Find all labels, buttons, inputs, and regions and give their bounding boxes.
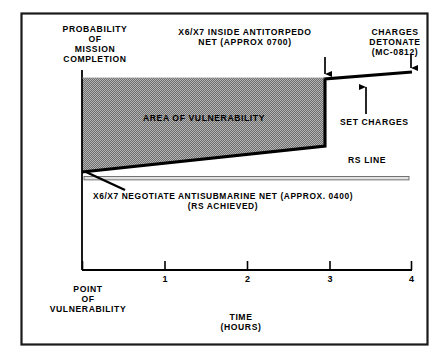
x-axis-title-line-1: TIME [186,312,296,322]
negotiate-net-line-2: (RS ACHIEVED) [58,202,388,212]
rs-line [84,177,409,180]
x-axis-title: TIME (HOURS) [186,312,296,332]
charges-detonate-line-1: CHARGES [352,27,438,37]
x-tick-label-1: 1 [158,274,172,284]
charges-detonate-line-3: (MC-0812) [352,47,438,57]
annotation-negotiate-antisubmarine-net: X6/X7 NEGOTIATE ANTISUBMARINE NET (APPRO… [58,192,388,212]
origin-label-line-2: OF [30,294,146,304]
area-of-vulnerability-label: AREA OF VULNERABILITY [96,113,312,123]
annotation-set-charges: SET CHARGES [340,117,436,127]
y-axis-title-line-2: OF [36,34,154,44]
inside-net-line-2: NET (APPROX 0700) [152,37,338,47]
x-tick-label-2: 2 [241,274,255,284]
x-tick-label-3: 3 [323,274,337,284]
figure-root: PROBABILITY OF MISSION COMPLETION X6/X7 … [0,0,447,360]
x-axis-title-line-2: (HOURS) [186,322,296,332]
annotation-rs-line: RS LINE [348,155,428,165]
negotiate-net-leader-line [86,172,125,190]
y-axis-title-line-3: MISSION [36,44,154,54]
annotation-charges-detonate: CHARGES DETONATE (MC-0812) [352,27,438,57]
origin-label-line-3: VULNERABILITY [30,304,146,314]
point-of-vulnerability-label: POINT OF VULNERABILITY [30,284,146,314]
charges-detonate-line-2: DETONATE [352,37,438,47]
y-axis-title: PROBABILITY OF MISSION COMPLETION [36,24,154,65]
y-axis-title-line-1: PROBABILITY [36,24,154,34]
x-tick-label-4: 4 [405,274,419,284]
inside-net-line-1: X6/X7 INSIDE ANTITORPEDO [152,27,338,37]
y-axis-title-line-4: COMPLETION [36,54,154,64]
annotation-inside-antitorpedo-net: X6/X7 INSIDE ANTITORPEDO NET (APPROX 070… [152,27,338,47]
origin-label-line-1: POINT [30,284,146,294]
